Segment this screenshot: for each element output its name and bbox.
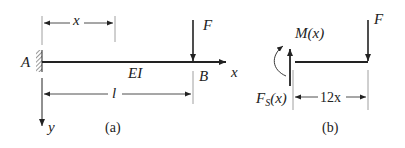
- shear-label-main: F: [256, 90, 265, 106]
- caption-a: (a): [105, 121, 121, 135]
- shear-label: FS(x): [256, 91, 287, 108]
- load-label-f: F: [203, 18, 212, 33]
- caption-b: (b): [322, 121, 338, 135]
- stiffness-label: EI: [128, 66, 142, 81]
- load-label-f-b: F: [374, 12, 383, 27]
- x-axis-label: x: [231, 65, 238, 80]
- support-label-a: A: [21, 55, 30, 70]
- fixed-support: [36, 50, 42, 72]
- length-label: l: [112, 86, 116, 101]
- moment-arrow: [274, 46, 286, 76]
- moment-label: M(x): [295, 26, 324, 41]
- x-dimension-label: x: [73, 13, 80, 28]
- y-axis-label: y: [48, 120, 55, 135]
- shear-label-arg: (x): [270, 90, 287, 106]
- segment-dimension-label: 12x: [320, 91, 341, 105]
- end-label-b: B: [199, 69, 208, 84]
